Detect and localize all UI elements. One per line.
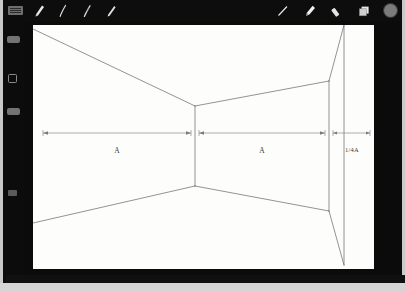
toolbar-right-group bbox=[275, 2, 398, 19]
perspective-room-drawing bbox=[33, 25, 374, 269]
top-toolbar bbox=[3, 0, 402, 21]
sidebar-item-tool-top[interactable] bbox=[7, 36, 20, 43]
toolbar-left-group bbox=[8, 2, 119, 19]
app-root: A A 1/4A bbox=[0, 0, 405, 292]
sidebar-item-more[interactable] bbox=[8, 190, 17, 196]
tablet-device-frame: A A 1/4A bbox=[3, 0, 402, 283]
drawing-canvas[interactable]: A A 1/4A bbox=[33, 25, 374, 269]
marker-tool-button[interactable] bbox=[104, 4, 119, 18]
eraser-tool-button[interactable] bbox=[329, 4, 344, 18]
sidebar-item-tool-bottom[interactable] bbox=[7, 108, 20, 115]
dimension-label-middle: A bbox=[259, 146, 265, 155]
left-sidebar bbox=[3, 21, 24, 283]
page-background-footer bbox=[0, 283, 405, 292]
brush-tool-button[interactable] bbox=[56, 4, 71, 18]
highlighter-tool-button[interactable] bbox=[302, 4, 317, 18]
hamburger-icon bbox=[8, 6, 23, 15]
sidebar-item-shape[interactable] bbox=[8, 74, 17, 83]
layers-tool-button[interactable] bbox=[356, 4, 371, 18]
menu-button[interactable] bbox=[8, 4, 23, 18]
dimension-label-left: A bbox=[114, 146, 120, 155]
device-bottom-bezel bbox=[6, 275, 405, 283]
color-swatch-button[interactable] bbox=[383, 4, 398, 18]
color-swatch-icon bbox=[384, 4, 397, 17]
pen-tool-button[interactable] bbox=[32, 4, 47, 18]
line-tool-button[interactable] bbox=[275, 4, 290, 18]
dimension-label-right: 1/4A bbox=[345, 146, 359, 153]
pencil-tool-button[interactable] bbox=[80, 4, 95, 18]
